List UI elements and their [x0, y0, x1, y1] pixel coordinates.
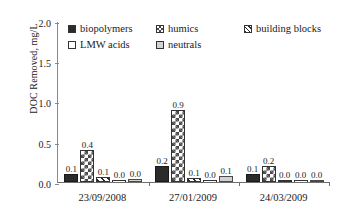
x-axis-divider [149, 182, 150, 186]
bar-value-label: 0.1 [66, 164, 77, 174]
legend-swatch-icon [68, 25, 76, 33]
y-axis-tick: 0.5 [27, 134, 58, 152]
y-axis-tick: 0.0 [27, 174, 58, 192]
bar-value-label: 0.1 [247, 164, 258, 174]
y-axis-tick-label: 2.0 [27, 18, 51, 29]
bar: 0.0 [310, 180, 324, 183]
bar-value-label: 0.0 [279, 170, 290, 180]
bar: 0.4 [80, 150, 94, 182]
bar-value-label: 0.4 [82, 140, 93, 150]
legend-swatch-icon [156, 41, 164, 49]
legend-item-neutrals[interactable]: neutrals [156, 39, 201, 50]
x-axis-divider [239, 182, 240, 186]
legend-label: biopolymers [80, 23, 133, 34]
bar: 0.0 [278, 180, 292, 183]
bar: 0.9 [171, 110, 185, 182]
bar: 0.2 [155, 166, 169, 182]
bar: 0.0 [294, 180, 308, 183]
bar: 0.1 [187, 178, 201, 182]
x-axis-divider [329, 182, 330, 186]
bar: 0.0 [128, 179, 142, 182]
y-axis-tick: 2.0 [27, 13, 58, 31]
legend-label: building blocks [256, 23, 321, 34]
legend-label: LMW acids [80, 39, 130, 50]
bar-value-label: 0.9 [172, 100, 183, 110]
bar-value-label: 0.0 [295, 170, 306, 180]
legend-row: biopolymershumicsbuilding blocks [68, 23, 330, 39]
doc-removal-bar-chart: DOC Removed, mg/L 2.01.51.00.50.0 0.10.2… [0, 0, 337, 223]
bar-value-label: 0.2 [263, 156, 274, 166]
bar: 0.1 [219, 176, 233, 182]
y-axis-tick-label: 0.0 [27, 179, 51, 190]
legend-label: neutrals [168, 39, 201, 50]
x-axis-label: 24/03/2009 [238, 192, 329, 203]
bar: 0.1 [96, 177, 110, 182]
y-axis-tick-label: 0.5 [27, 139, 51, 150]
chart-legend: biopolymershumicsbuilding blocksLMW acid… [68, 23, 330, 55]
y-axis-tick-label: 1.5 [27, 58, 51, 69]
legend-label: humics [168, 23, 198, 34]
bar-value-label: 0.0 [130, 169, 141, 179]
legend-swatch-icon [156, 25, 164, 33]
bar-value-label: 0.0 [114, 170, 125, 180]
bar: 0.2 [262, 166, 276, 182]
bar-value-label: 0.0 [311, 170, 322, 180]
legend-swatch-icon [68, 41, 76, 49]
bar: 0.1 [64, 174, 78, 182]
legend-item-building-blocks[interactable]: building blocks [244, 23, 321, 34]
y-axis-tick-mark [55, 184, 59, 185]
legend-item-humics[interactable]: humics [156, 23, 198, 34]
x-axis-label: 23/09/2008 [57, 192, 148, 203]
bar-value-label: 0.1 [188, 168, 199, 178]
legend-row: LMW acidsneutrals [68, 39, 330, 55]
y-axis-tick-label: 1.0 [27, 98, 51, 109]
bar: 0.0 [112, 180, 126, 183]
legend-swatch-icon [244, 25, 252, 33]
bar-value-label: 0.1 [220, 166, 231, 176]
legend-item-lmw-acids[interactable]: LMW acids [68, 39, 130, 50]
legend-item-biopolymers[interactable]: biopolymers [68, 23, 133, 34]
bar-value-label: 0.1 [98, 167, 109, 177]
x-axis-labels: 23/09/200827/01/200924/03/2009 [57, 192, 329, 210]
bar-value-label: 0.2 [156, 156, 167, 166]
bar-value-label: 0.0 [204, 170, 215, 180]
bar: 0.0 [203, 180, 217, 183]
bar: 0.1 [246, 174, 260, 182]
y-axis-tick: 1.5 [27, 53, 58, 71]
x-axis-label: 27/01/2009 [148, 192, 239, 203]
y-axis-tick: 1.0 [27, 94, 58, 112]
